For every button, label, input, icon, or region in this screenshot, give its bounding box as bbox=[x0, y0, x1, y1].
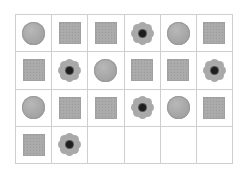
flower-icon bbox=[131, 22, 154, 45]
circle-icon bbox=[167, 22, 190, 45]
grid-cell[interactable] bbox=[88, 90, 124, 127]
grid-cell[interactable] bbox=[125, 15, 161, 52]
grid-cell[interactable] bbox=[161, 127, 197, 164]
grid-cell[interactable] bbox=[197, 52, 233, 89]
square-icon bbox=[95, 22, 117, 44]
grid-cell[interactable] bbox=[52, 15, 88, 52]
grid-cell[interactable] bbox=[197, 127, 233, 164]
grid-cell[interactable] bbox=[52, 127, 88, 164]
grid-cell[interactable] bbox=[88, 127, 124, 164]
grid-cell[interactable] bbox=[52, 90, 88, 127]
grid-cell[interactable] bbox=[125, 127, 161, 164]
circle-icon bbox=[94, 59, 117, 82]
square-icon bbox=[23, 59, 45, 81]
grid-cell[interactable] bbox=[161, 15, 197, 52]
grid-cell[interactable] bbox=[161, 90, 197, 127]
grid-cell[interactable] bbox=[16, 52, 52, 89]
flower-icon bbox=[58, 59, 81, 82]
grid-cell[interactable] bbox=[16, 90, 52, 127]
square-icon bbox=[59, 97, 81, 119]
grid-cell[interactable] bbox=[88, 52, 124, 89]
square-icon bbox=[203, 97, 225, 119]
grid-cell[interactable] bbox=[88, 15, 124, 52]
square-icon bbox=[95, 97, 117, 119]
flower-icon bbox=[203, 59, 226, 82]
square-icon bbox=[203, 22, 225, 44]
square-icon bbox=[59, 22, 81, 44]
square-icon bbox=[23, 134, 45, 156]
grid-cell[interactable] bbox=[16, 127, 52, 164]
square-icon bbox=[131, 59, 153, 81]
grid-cell[interactable] bbox=[197, 90, 233, 127]
grid-cell[interactable] bbox=[16, 15, 52, 52]
shape-grid bbox=[15, 14, 233, 164]
grid-cell[interactable] bbox=[52, 52, 88, 89]
circle-icon bbox=[22, 22, 45, 45]
grid-cell[interactable] bbox=[161, 52, 197, 89]
flower-icon bbox=[131, 96, 154, 119]
circle-icon bbox=[22, 96, 45, 119]
grid-cell[interactable] bbox=[197, 15, 233, 52]
square-icon bbox=[167, 59, 189, 81]
grid-cell[interactable] bbox=[125, 90, 161, 127]
grid-cell[interactable] bbox=[125, 52, 161, 89]
flower-icon bbox=[58, 133, 81, 156]
circle-icon bbox=[167, 96, 190, 119]
